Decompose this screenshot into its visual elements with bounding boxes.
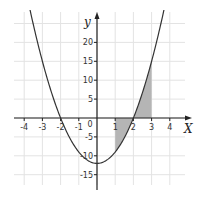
x-axis-label: X bbox=[183, 122, 193, 136]
y-tick-label: 5 bbox=[88, 95, 93, 104]
x-tick-label: -2 bbox=[57, 123, 65, 132]
x-tick-label: -3 bbox=[38, 123, 46, 132]
y-tick-label: 20 bbox=[83, 38, 93, 47]
y-tick-label: 15 bbox=[83, 57, 93, 66]
y-tick-label: 10 bbox=[83, 76, 93, 85]
y-tick-labels: -15-10-55101520 bbox=[80, 38, 93, 179]
y-tick-label: -15 bbox=[80, 171, 93, 180]
axes bbox=[14, 12, 192, 190]
x-tick-label: 3 bbox=[149, 123, 154, 132]
y-tick-label: -10 bbox=[80, 152, 93, 161]
grid-lines bbox=[14, 12, 185, 185]
y-axis-label: y bbox=[83, 15, 91, 29]
x-tick-labels: -4-3-2-101234 bbox=[20, 120, 172, 132]
x-tick-label: 2 bbox=[131, 123, 136, 132]
x-tick-label: -4 bbox=[20, 123, 28, 132]
x-tick-label: -1 bbox=[75, 123, 83, 132]
x-tick-label: 0 bbox=[87, 120, 92, 129]
x-tick-label: 1 bbox=[113, 123, 118, 132]
y-tick-label: -5 bbox=[85, 133, 93, 142]
x-tick-label: 4 bbox=[167, 123, 172, 132]
parabola-chart: -4-3-2-101234 -15-10-55101520 X y bbox=[0, 0, 210, 197]
